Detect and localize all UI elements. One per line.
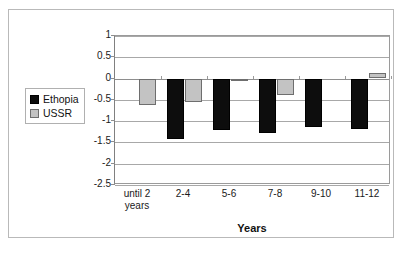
legend-swatch-icon (30, 95, 39, 104)
bar-ussr-5 (369, 73, 386, 78)
x-axis-label-0: until 2 years (114, 188, 160, 212)
gridline (115, 100, 389, 101)
y-axis-tick-label: 0.5 (75, 51, 111, 61)
bar-ethopia-5 (351, 79, 368, 129)
legend-item-ethopia: Ethopia (30, 92, 79, 106)
x-axis-tick-mark (161, 76, 162, 79)
x-axis-title: Years (114, 222, 390, 234)
gridline (115, 164, 389, 165)
bar-ussr-3 (277, 79, 294, 95)
bar-ussr-2 (231, 79, 248, 81)
y-axis-tick-mark (111, 141, 115, 142)
gridline (115, 121, 389, 122)
legend-swatch-icon (30, 109, 39, 118)
x-axis-label-4: 9-10 (298, 188, 344, 200)
x-axis-label-3: 7-8 (252, 188, 298, 200)
y-axis-tick-label: -1.5 (75, 136, 111, 146)
zero-line (115, 79, 389, 80)
chart-legend: EthopiaUSSR (25, 88, 85, 124)
bar-ethopia-2 (213, 79, 230, 130)
bar-ethopia-4 (305, 79, 322, 127)
y-axis-tick-mark (111, 35, 115, 36)
bar-ussr-1 (185, 79, 202, 102)
y-axis-tick-mark (111, 56, 115, 57)
y-axis-tick-mark (111, 99, 115, 100)
bar-ethopia-1 (167, 79, 184, 139)
gridline (115, 36, 389, 37)
y-axis-tick-label: 0 (75, 73, 111, 83)
y-axis-tick-label: -2 (75, 158, 111, 168)
y-axis-tick-mark (111, 184, 115, 185)
x-axis-tick-mark (391, 76, 392, 79)
x-axis-label-1: 2-4 (160, 188, 206, 200)
x-axis-tick-mark (299, 76, 300, 79)
gridline (115, 142, 389, 143)
y-axis-tick-mark (111, 163, 115, 164)
x-axis-label-2: 5-6 (206, 188, 252, 200)
legend-item-ussr: USSR (30, 106, 79, 120)
y-axis-tick-mark (111, 78, 115, 79)
gridline (115, 185, 389, 186)
plot-area (114, 35, 390, 184)
bar-ethopia-3 (259, 79, 276, 133)
gridline (115, 57, 389, 58)
y-axis-tick-label: -2.5 (75, 179, 111, 189)
chart-frame: 10.50-0.5-1-1.5-2-2.5 until 2 years2-45-… (8, 9, 394, 238)
bar-ussr-0 (139, 79, 156, 105)
x-axis-tick-mark (345, 76, 346, 79)
y-axis-tick-label: 1 (75, 30, 111, 40)
y-axis-tick-mark (111, 120, 115, 121)
x-axis-label-5: 11-12 (344, 188, 390, 200)
x-axis-tick-mark (207, 76, 208, 79)
chart-screenshot: 10.50-0.5-1-1.5-2-2.5 until 2 years2-45-… (0, 0, 405, 257)
x-axis-tick-mark (253, 76, 254, 79)
legend-label: USSR (43, 108, 72, 119)
legend-label: Ethopia (43, 94, 79, 105)
